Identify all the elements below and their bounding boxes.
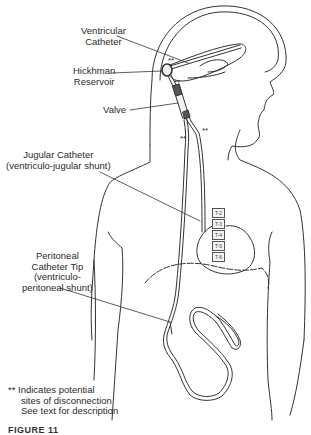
label-peritoneal-catheter: Peritoneal Catheter Tip (ventriculo- per…: [22, 251, 93, 293]
label-line: Hickhman: [73, 66, 115, 77]
label-line: peritoneal shunt): [22, 283, 93, 294]
heart-outline: [197, 225, 255, 274]
vertebra-t4: T-4: [212, 230, 225, 240]
label-line: Reservoir: [73, 77, 115, 88]
label-jugular-catheter: Jugular Catheter (ventriculo-jugular shu…: [6, 150, 111, 171]
label-line: Peritoneal: [22, 251, 93, 262]
disconnection-marker-4: **: [202, 126, 208, 137]
ventricle-inner-curve: [200, 60, 228, 72]
vertebra-t3: T-3: [212, 219, 225, 229]
leader-peritoneal: [60, 288, 170, 322]
ventricular-catheter-b: [171, 48, 241, 69]
label-ventricular-catheter: Ventricular Catheter: [81, 26, 126, 47]
leader-valve: [130, 103, 178, 110]
footnote-line: See text for description: [8, 406, 118, 417]
footnote-line: ** Indicates potential: [8, 385, 118, 396]
disconnection-marker-1: **: [168, 56, 174, 67]
jugular-catheter-b: [191, 121, 205, 232]
right-arm-inner: [267, 232, 272, 420]
leader-ventricular: [117, 36, 188, 63]
vertebra-t5: T-5: [212, 241, 225, 251]
diaphragm: [145, 263, 269, 288]
leader-jugular: [100, 172, 200, 221]
footnote: ** Indicates potential sites of disconne…: [8, 385, 118, 417]
vertebra-t6: T-6: [212, 252, 225, 262]
vertebra-t2: T-2: [212, 208, 225, 218]
label-line: (ventriculo-: [22, 272, 93, 283]
figure-caption: FIGURE 11: [8, 425, 59, 435]
label-valve: Valve: [103, 105, 126, 116]
leader-reservoir: [112, 71, 162, 73]
right-arm-outer: [290, 340, 304, 415]
label-line: (ventriculo-jugular shunt): [6, 161, 111, 172]
label-hickman-reservoir: Hickhman Reservoir: [73, 66, 115, 87]
disconnection-marker-3: **: [180, 134, 186, 145]
label-line: Catheter: [81, 37, 126, 48]
label-line: Jugular Catheter: [6, 150, 111, 161]
ventricle: [168, 44, 245, 81]
head-outline: [150, 6, 286, 160]
disconnection-marker-2: **: [174, 78, 180, 89]
left-arm-outer: [94, 260, 96, 380]
label-line: Ventricular: [81, 26, 126, 37]
